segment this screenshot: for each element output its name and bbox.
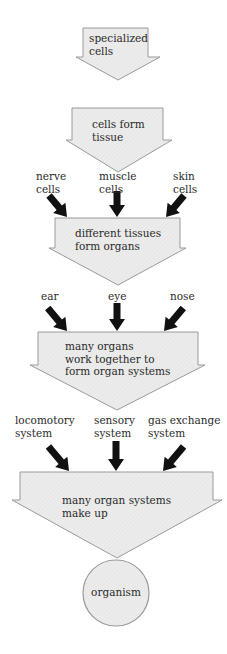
stage-1-text: specialized cells: [89, 32, 148, 57]
tissue-input-arrows: [43, 190, 190, 222]
label-locomotory-system: locomotory system: [15, 414, 75, 439]
label-eye: eye: [108, 290, 126, 303]
stage-3-text: different tissues form organs: [75, 227, 161, 252]
label-sensory-system: sensory system: [94, 414, 135, 439]
system-input-arrows: [42, 441, 189, 476]
organism-text: organism: [83, 586, 149, 599]
label-muscle-cells: muscle cells: [99, 170, 137, 195]
label-ear: ear: [41, 290, 59, 303]
flow-diagram: [0, 0, 227, 654]
label-nerve-cells: nerve cells: [36, 170, 66, 195]
label-nose: nose: [170, 290, 195, 303]
stage-5-text: many organ systems make up: [62, 494, 171, 519]
stage-2-text: cells form tissue: [92, 118, 145, 143]
stage-4-text: many organs work together to form organ …: [65, 340, 170, 378]
label-gas-exchange-system: gas exchange system: [148, 414, 220, 439]
organ-input-arrows: [42, 303, 190, 336]
label-skin-cells: skin cells: [173, 170, 197, 195]
